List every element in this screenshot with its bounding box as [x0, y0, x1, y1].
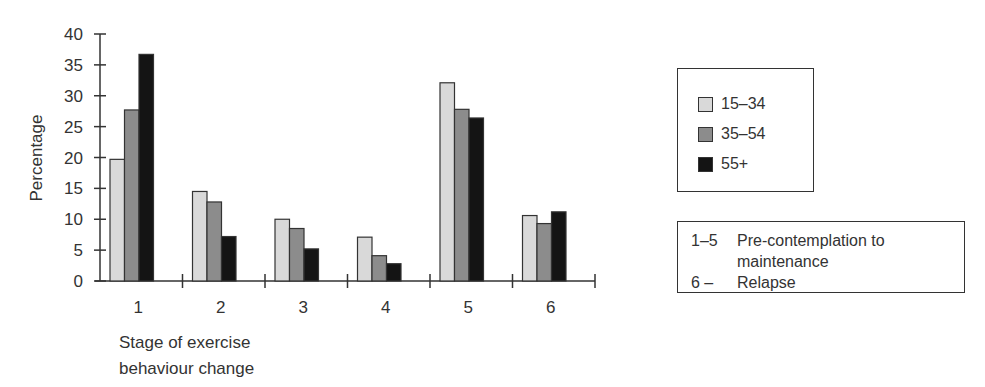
note-text: Relapse [737, 272, 796, 293]
note-text: Pre-contemplation to [737, 230, 885, 251]
y-tick-label: 15 [64, 179, 83, 198]
bar-55+-stage-6 [552, 212, 567, 281]
note-key: 6 – [691, 272, 737, 293]
y-tick-label: 0 [74, 272, 83, 291]
legend-item: 15–34 [698, 89, 813, 119]
x-axis-label-line1: Stage of exercise [119, 333, 250, 352]
bar-35–54-stage-6 [537, 224, 552, 281]
x-tick-label: 6 [546, 298, 555, 317]
y-tick-label: 40 [64, 25, 83, 44]
y-tick-label: 10 [64, 210, 83, 229]
bar-55+-stage-1 [139, 54, 154, 281]
legend-item: 35–54 [698, 119, 813, 149]
note-row: 6 –Relapse [691, 272, 964, 293]
y-tick-label: 20 [64, 149, 83, 168]
x-tick-label: 4 [381, 298, 390, 317]
bars [110, 54, 566, 281]
bar-15–34-stage-5 [440, 83, 455, 281]
y-tick-label: 25 [64, 118, 83, 137]
legend-label: 55+ [721, 155, 748, 173]
bar-55+-stage-2 [222, 237, 237, 281]
bar-15–34-stage-2 [193, 191, 208, 281]
bar-15–34-stage-4 [358, 237, 373, 281]
bar-35–54-stage-3 [290, 229, 305, 281]
x-tick-label: 3 [299, 298, 308, 317]
note-row: maintenance [691, 251, 964, 272]
bar-15–34-stage-6 [523, 216, 538, 281]
note-row: 1–5Pre-contemplation to [691, 230, 964, 251]
bar-15–34-stage-3 [275, 219, 290, 281]
bar-35–54-stage-1 [125, 110, 140, 281]
note-text: maintenance [737, 251, 829, 272]
y-tick-label: 5 [74, 241, 83, 260]
legend-label: 15–34 [721, 95, 766, 113]
bar-55+-stage-3 [304, 249, 319, 281]
bar-chart: 0510152025303540123456 Percentage Stage … [0, 0, 985, 387]
x-tick-label: 1 [134, 298, 143, 317]
legend-item: 55+ [698, 149, 813, 179]
bar-35–54-stage-4 [372, 256, 387, 281]
legend-swatch [698, 97, 713, 112]
y-tick-label: 30 [64, 87, 83, 106]
stage-note: 1–5Pre-contemplation tomaintenance6 –Rel… [677, 221, 965, 293]
y-axis-label: Percentage [27, 115, 46, 202]
legend-label: 35–54 [721, 125, 766, 143]
bar-55+-stage-4 [387, 264, 402, 281]
bar-15–34-stage-1 [110, 159, 125, 281]
note-key: 1–5 [691, 230, 737, 251]
x-tick-label: 2 [216, 298, 225, 317]
x-axis-label-line2: behaviour change [119, 359, 254, 378]
legend: 15–3435–5455+ [677, 68, 814, 192]
legend-swatch [698, 157, 713, 172]
bar-35–54-stage-2 [207, 202, 222, 281]
y-tick-label: 35 [64, 56, 83, 75]
note-key [691, 251, 737, 272]
bar-35–54-stage-5 [455, 109, 470, 281]
x-tick-label: 5 [464, 298, 473, 317]
legend-swatch [698, 127, 713, 142]
bar-55+-stage-5 [469, 118, 484, 281]
